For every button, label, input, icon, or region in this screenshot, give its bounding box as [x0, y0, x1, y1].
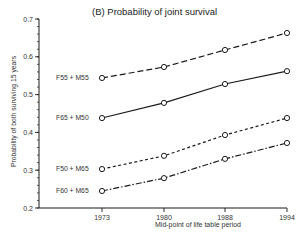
plot-area: 0.20.30.40.50.60.71973198019881994	[0, 0, 308, 243]
series-label-f65-m50: F65 + M50	[56, 114, 89, 121]
data-point-marker	[222, 132, 227, 137]
series-lines	[99, 30, 289, 193]
y-tick-label: 0.4	[23, 129, 33, 136]
data-point-marker	[222, 156, 227, 161]
data-point-marker	[161, 176, 166, 181]
x-tick-label: 1980	[156, 214, 172, 221]
series-line	[102, 118, 287, 169]
x-tick-label: 1994	[279, 214, 295, 221]
data-point-marker	[284, 30, 289, 35]
data-point-marker	[284, 69, 289, 74]
y-tick-label: 0.7	[23, 16, 33, 23]
data-point-marker	[284, 140, 289, 145]
series-line	[102, 33, 287, 78]
series-label-f55-m55: F55 + M55	[56, 74, 89, 81]
data-point-marker	[161, 100, 166, 105]
data-point-marker	[99, 115, 104, 120]
y-tick-label: 0.6	[23, 53, 33, 60]
x-tick-label: 1973	[94, 214, 110, 221]
data-point-marker	[284, 115, 289, 120]
data-point-marker	[99, 166, 104, 171]
data-point-marker	[99, 75, 104, 80]
data-point-marker	[222, 47, 227, 52]
y-tick-label: 0.5	[23, 91, 33, 98]
series-line	[102, 71, 287, 118]
data-point-marker	[99, 188, 104, 193]
y-tick-label: 0.3	[23, 167, 33, 174]
series-label-f50-m65: F50 + M65	[56, 165, 89, 172]
data-point-marker	[222, 81, 227, 86]
y-tick-label: 0.2	[23, 205, 33, 212]
joint-survival-chart: (B) Probability of joint survival Probab…	[0, 0, 308, 243]
x-tick-label: 1988	[217, 214, 233, 221]
series-line	[102, 143, 287, 191]
data-point-marker	[161, 64, 166, 69]
series-label-f60-m65: F60 + M65	[56, 187, 89, 194]
data-point-marker	[161, 153, 166, 158]
